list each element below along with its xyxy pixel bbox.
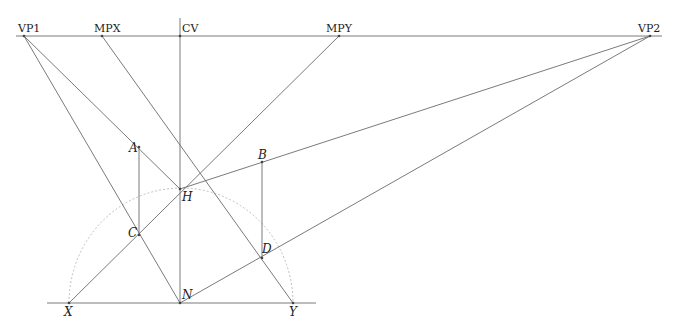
label-mpy: MPY [326, 22, 353, 35]
point-mpy [338, 35, 341, 38]
label-b: B [257, 148, 267, 162]
point-y [292, 302, 295, 305]
line-vp2-h [180, 36, 650, 189]
point-c [138, 234, 141, 237]
label-h: H [181, 190, 193, 204]
line-vp2-n [180, 36, 650, 303]
point-vp2 [649, 35, 652, 38]
label-a: A [128, 141, 138, 155]
point-mpx [101, 35, 104, 38]
line-mpy-x [69, 36, 339, 303]
point-cv [179, 35, 182, 38]
line-mpx-y [102, 36, 293, 303]
point-n [179, 302, 182, 305]
label-vp1: VP1 [17, 22, 40, 35]
point-d [261, 257, 264, 260]
label-cv: CV [182, 22, 199, 35]
point-a [138, 146, 141, 149]
label-x: X [63, 305, 73, 319]
measuring-semicircle [69, 188, 293, 303]
label-d: D [261, 242, 272, 256]
label-mpx: MPX [94, 22, 121, 35]
label-vp2: VP2 [637, 22, 660, 35]
point-x [68, 302, 71, 305]
perspective-diagram: VP1 MPX CV MPY VP2 A B C D H N X Y [0, 0, 675, 335]
line-vp1-n [24, 36, 180, 303]
label-n: N [181, 288, 193, 302]
label-y: Y [289, 305, 298, 319]
label-c: C [128, 226, 137, 240]
point-vp1 [23, 35, 26, 38]
point-h [179, 188, 182, 191]
